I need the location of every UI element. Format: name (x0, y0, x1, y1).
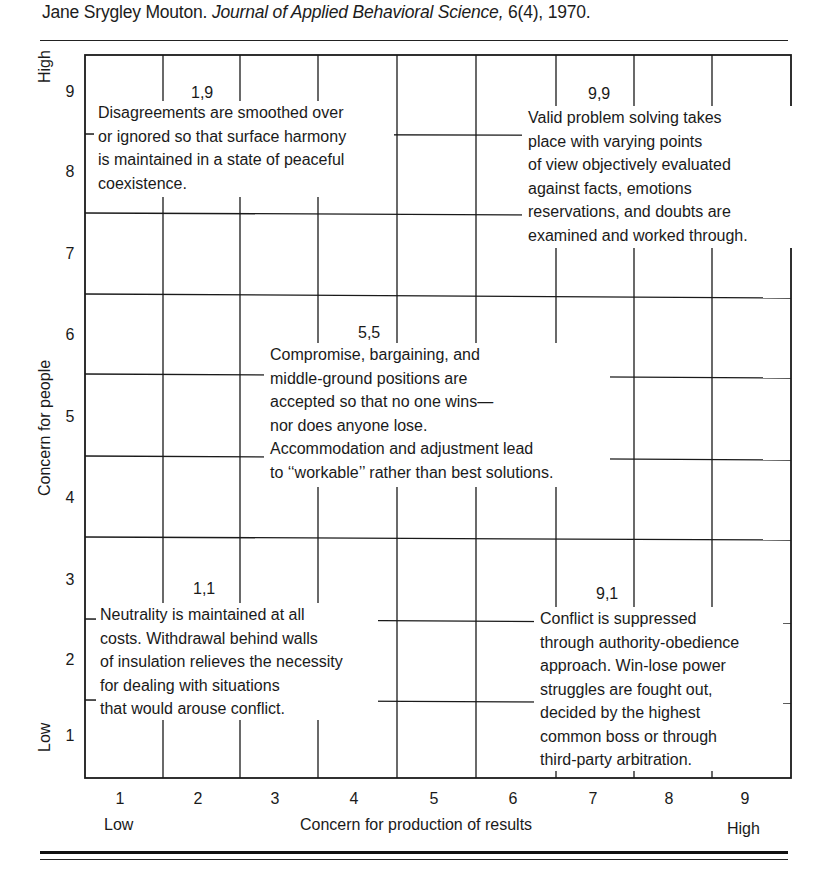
x-tick-9: 9 (735, 790, 755, 808)
y-axis-low-label: Low (36, 723, 54, 752)
style-5-5-description: Compromise, bargaining, and middle-groun… (264, 343, 610, 487)
style-9-1-coord: 9,1 (590, 585, 624, 603)
y-tick-3: 3 (60, 571, 80, 589)
style-9-9-coord: 9,9 (582, 85, 616, 103)
x-axis-low-label: Low (104, 816, 133, 834)
x-tick-4: 4 (344, 790, 364, 808)
y-tick-8: 8 (60, 163, 80, 181)
style-1-1-description: Neutrality is maintained at all costs. W… (96, 603, 378, 720)
style-5-5-coord: 5,5 (352, 324, 386, 342)
y-tick-7: 7 (60, 245, 80, 263)
y-axis-high-label: High (36, 50, 54, 83)
y-tick-5: 5 (60, 408, 80, 426)
bottom-rule-thick (40, 851, 788, 854)
style-1-9-coord: 1,9 (185, 84, 219, 102)
bottom-rule-thin (40, 859, 788, 860)
x-tick-2: 2 (188, 790, 208, 808)
y-axis-label: Concern for people (36, 360, 54, 496)
x-tick-7: 7 (583, 790, 603, 808)
x-axis-label: Concern for production of results (300, 816, 532, 834)
x-tick-8: 8 (659, 790, 679, 808)
x-tick-3: 3 (265, 790, 285, 808)
style-1-1-coord: 1,1 (187, 580, 221, 598)
x-axis-high-label: High (727, 820, 760, 838)
y-tick-4: 4 (60, 489, 80, 507)
style-1-9-description: Disagreements are smoothed over or ignor… (94, 101, 394, 197)
y-tick-9: 9 (60, 83, 80, 101)
y-tick-6: 6 (60, 326, 80, 344)
x-tick-5: 5 (424, 790, 444, 808)
y-tick-2: 2 (60, 651, 80, 669)
x-tick-6: 6 (503, 790, 523, 808)
style-9-9-description: Valid problem solving takes place with v… (522, 106, 793, 248)
y-tick-1: 1 (60, 727, 80, 745)
x-tick-1: 1 (110, 790, 130, 808)
style-9-1-description: Conflict is suppressed through authority… (534, 607, 783, 771)
